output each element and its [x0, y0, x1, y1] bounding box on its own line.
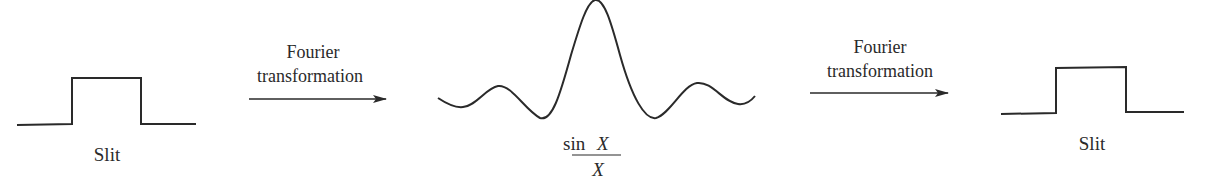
- slit-left-label: Slit: [94, 144, 121, 165]
- slit-left-function: Slit: [17, 78, 196, 165]
- slit-right-label: Slit: [1079, 133, 1106, 154]
- sinc-function: sin X X: [438, 0, 755, 180]
- sinc-label-fn: sin: [563, 133, 586, 154]
- arrow-2-line1: Fourier: [854, 37, 907, 57]
- arrow-2-line2: transformation: [827, 61, 933, 81]
- sinc-label-denominator: X: [591, 159, 605, 180]
- arrow-1-line2: transformation: [257, 66, 363, 86]
- sinc-label-numerator-var: X: [596, 133, 610, 154]
- fourier-arrow-2: Fourier transformation: [810, 37, 948, 93]
- rect-pulse-right: [1001, 67, 1184, 114]
- slit-right-function: Slit: [1001, 67, 1184, 154]
- sinc-curve: [438, 0, 755, 118]
- arrow-1-line1: Fourier: [287, 42, 340, 62]
- rect-pulse-left: [17, 78, 196, 125]
- fourier-arrow-1: Fourier transformation: [249, 42, 386, 99]
- fourier-diagram: Slit Fourier transformation sin X X Four…: [0, 0, 1216, 190]
